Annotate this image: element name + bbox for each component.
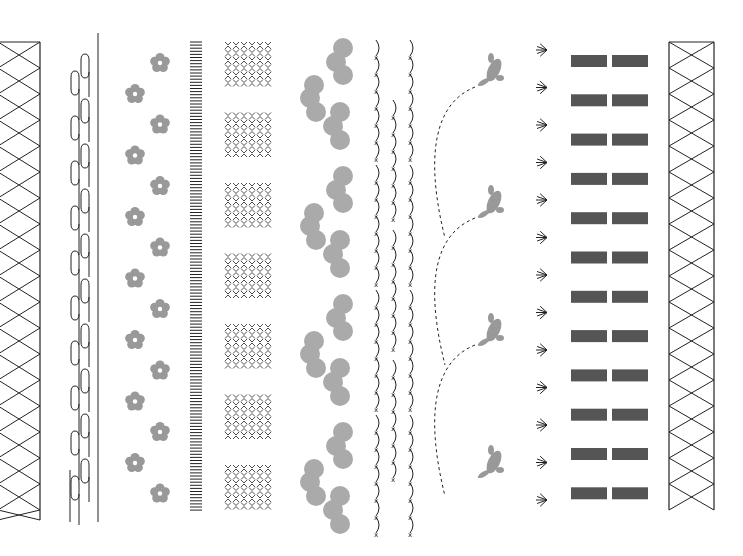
svg-text:x: x [408,355,412,363]
sunburst-border [536,44,547,507]
svg-text:x: x [374,463,378,471]
lattice-border-right [669,42,714,510]
svg-text:x: x [374,230,378,238]
svg-text:x: x [391,476,395,484]
wave-lines-border [70,33,98,525]
svg-text:x: x [374,213,378,221]
svg-text:x: x [374,71,378,79]
svg-text:x: x [374,54,378,62]
svg-text:x: x [408,514,412,522]
svg-text:x: x [408,247,412,255]
svg-text:x: x [408,531,412,539]
svg-text:x: x [374,497,378,505]
svg-text:x: x [391,408,395,416]
svg-text:x: x [391,165,395,173]
svg-text:x: x [391,425,395,433]
svg-text:x: x [408,105,412,113]
svg-text:x: x [374,139,378,147]
svg-text:x: x [408,213,412,221]
svg-text:x: x [374,88,378,96]
svg-text:x: x [374,514,378,522]
svg-text:x: x [408,264,412,272]
svg-text:x: x [374,247,378,255]
svg-text:x: x [374,355,378,363]
svg-text:x: x [374,105,378,113]
svg-text:x: x [408,497,412,505]
lattice-border-left [0,42,40,520]
svg-text:x: x [391,182,395,190]
svg-text:x: x [408,304,412,312]
svg-text:x: x [391,278,395,286]
svg-text:x: x [391,391,395,399]
hatch-stripe-border [190,42,202,510]
svg-text:x: x [408,122,412,130]
svg-text:x: x [408,156,412,164]
svg-text:x: x [408,71,412,79]
plum-flower-border [125,53,170,503]
svg-text:x: x [391,131,395,139]
svg-text:x: x [408,338,412,346]
svg-text:x: x [374,196,378,204]
svg-text:x: x [408,463,412,471]
svg-text:x: x [374,304,378,312]
svg-text:x: x [374,156,378,164]
svg-text:x: x [391,459,395,467]
svg-text:x: x [391,261,395,269]
hopping-rabbit-border [435,53,505,496]
svg-text:x: x [408,321,412,329]
svg-text:x: x [408,406,412,414]
svg-text:x: x [408,230,412,238]
svg-text:x: x [391,148,395,156]
svg-text:x: x [408,281,412,289]
svg-text:x: x [391,312,395,320]
svg-text:x: x [408,88,412,96]
cloud-circle-border [300,38,353,534]
svg-text:x: x [374,389,378,397]
svg-text:x: x [391,346,395,354]
svg-text:x: x [391,244,395,252]
svg-text:x: x [391,199,395,207]
svg-text:x: x [408,429,412,437]
svg-text:x: x [408,480,412,488]
svg-text:x: x [408,389,412,397]
svg-text:x: x [391,216,395,224]
svg-text:x: x [374,531,378,539]
svg-text:x: x [374,179,378,187]
svg-text:x: x [374,122,378,130]
svg-text:x: x [374,406,378,414]
bar-pair-border [571,55,648,499]
stitched-arc-border: xxxxxxxxxxxxxxxxxxxxxxxxxxxxxxxxxxxxxxxx… [374,40,413,539]
svg-text:x: x [374,264,378,272]
svg-text:x: x [374,321,378,329]
svg-text:x: x [374,429,378,437]
svg-text:x: x [408,139,412,147]
svg-text:x: x [374,372,378,380]
svg-text:x: x [408,446,412,454]
svg-text:x: x [391,114,395,122]
svg-text:x: x [374,338,378,346]
svg-text:x: x [391,374,395,382]
pattern-canvas: xxxxxxxxxxxxxxxxxxxxxxxxxxxxxxxxxxxxxxxx… [0,0,743,556]
svg-text:x: x [408,179,412,187]
svg-text:x: x [374,446,378,454]
svg-text:x: x [391,295,395,303]
svg-text:x: x [374,281,378,289]
svg-text:x: x [408,54,412,62]
svg-text:x: x [391,329,395,337]
svg-text:x: x [391,442,395,450]
svg-text:x: x [408,196,412,204]
kagome-block-border [225,42,271,510]
svg-text:x: x [408,372,412,380]
svg-text:x: x [374,480,378,488]
